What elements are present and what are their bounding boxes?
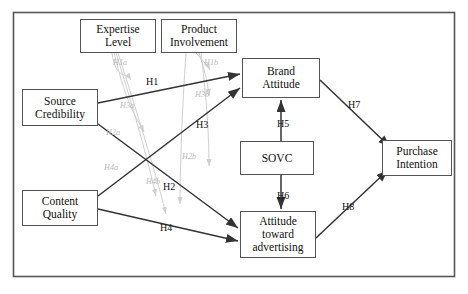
node-attitude-toward-advertising[interactable]: Attitude toward advertising bbox=[240, 211, 316, 258]
edge-label-H2: H2 bbox=[163, 181, 175, 192]
edge-label-H3: H3 bbox=[196, 119, 208, 130]
edge-label-H6: H6 bbox=[277, 190, 289, 201]
node-expertise-level[interactable]: Expertise Level bbox=[80, 19, 156, 53]
node-product-involvement[interactable]: Product Involvement bbox=[161, 19, 237, 53]
arrow-H1 bbox=[98, 74, 240, 103]
moderator-label-H1b: H1b bbox=[204, 58, 218, 67]
node-brand-attitude[interactable]: Brand Attitude bbox=[242, 58, 320, 98]
arrow-H7 bbox=[320, 80, 390, 147]
figure-canvas: Expertise Level Product Involvement Sour… bbox=[0, 0, 468, 294]
moderator-label-H3b: H3b bbox=[195, 90, 209, 99]
moderator-label-H4b: H4b bbox=[146, 177, 160, 186]
moderator-label-H2b: H2b bbox=[182, 152, 196, 161]
node-purchase-intention[interactable]: Purchase Intention bbox=[382, 140, 452, 176]
node-sovc[interactable]: SOVC bbox=[240, 141, 314, 175]
moderator-label-H4a: H4a bbox=[104, 163, 118, 172]
edge-label-H1: H1 bbox=[146, 76, 158, 87]
moderator-label-H2a: H2a bbox=[106, 128, 120, 137]
edge-label-H4: H4 bbox=[160, 222, 172, 233]
edge-label-H7: H7 bbox=[348, 99, 360, 110]
node-content-quality[interactable]: Content Quality bbox=[22, 190, 98, 226]
node-source-credibility[interactable]: Source Credibility bbox=[22, 89, 98, 126]
edge-label-H5: H5 bbox=[277, 118, 289, 129]
moderator-label-H3a: H3a bbox=[120, 101, 134, 110]
arrow-H3 bbox=[98, 124, 238, 228]
moderator-label-H1a: H1a bbox=[113, 58, 127, 67]
edge-label-H8: H8 bbox=[342, 201, 354, 212]
